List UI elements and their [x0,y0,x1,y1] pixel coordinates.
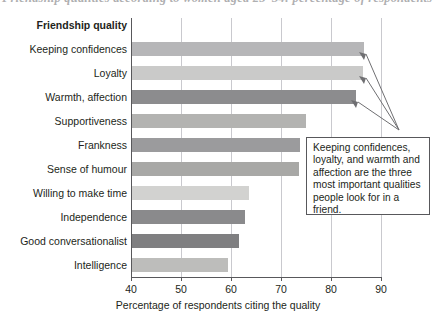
annotation-callout: Keeping confidences, loyalty, and warmth… [306,137,430,215]
group-header-friendship-quality: Friendship quality [1,19,127,31]
xtick-label-90: 90 [375,283,387,295]
bar-independence [132,210,245,224]
bar-supportiveness [132,114,306,128]
category-label-sense-of-humour: Sense of humour [1,163,127,175]
bar-intelligence [132,258,228,272]
xtick-label-50: 50 [175,283,187,295]
bar-loyalty [132,66,363,80]
bar-sense-of-humour [132,162,299,176]
tick-80 [331,277,332,281]
category-label-willing-to-make-time: Willing to make time [1,187,127,199]
bar-keeping-confidences [132,42,364,56]
xtick-label-40: 40 [125,283,137,295]
tick-90 [381,277,382,281]
x-axis-title: Percentage of respondents citing the qua… [0,299,436,311]
annotation-callout-text: Keeping confidences, loyalty, and warmth… [313,142,421,215]
xtick-label-70: 70 [275,283,287,295]
bar-good-conversationalist [132,234,239,248]
tick-50 [181,277,182,281]
category-label-loyalty: Loyalty [1,67,127,79]
category-label-supportiveness: Supportiveness [1,115,127,127]
category-label-independence: Independence [1,211,127,223]
tick-60 [231,277,232,281]
category-label-frankness: Frankness [1,139,127,151]
xtick-label-80: 80 [325,283,337,295]
bar-willing-to-make-time [132,186,249,200]
category-label-intelligence: Intelligence [1,259,127,271]
tick-40 [131,277,132,281]
bar-warmth-affection [132,90,356,104]
category-label-good-conversationalist: Good conversationalist [1,235,127,247]
category-axis-labels: Friendship quality Keeping confidences L… [0,0,127,329]
bar-chart-figure: Friendship qualities according to women … [0,0,436,329]
category-label-warmth-affection: Warmth, affection [1,91,127,103]
xtick-label-60: 60 [225,283,237,295]
bar-frankness [132,138,300,152]
tick-70 [281,277,282,281]
x-axis-line [131,277,382,278]
category-label-keeping-confidences: Keeping confidences [1,43,127,55]
